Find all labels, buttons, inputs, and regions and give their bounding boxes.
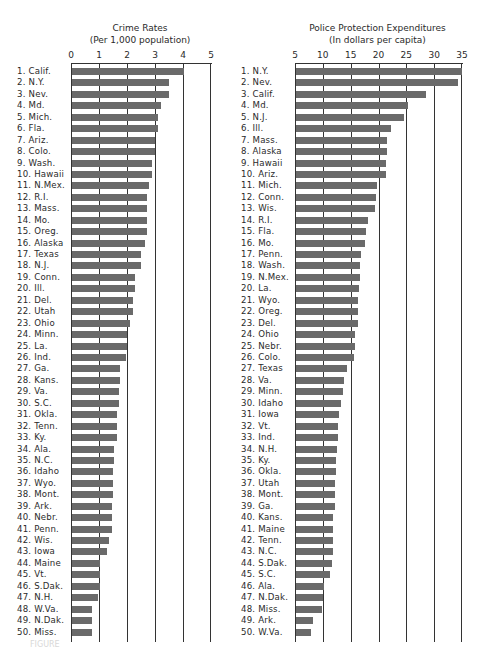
bar bbox=[72, 365, 120, 372]
category-label: 10. Hawaii bbox=[17, 169, 64, 180]
bar bbox=[72, 68, 184, 75]
category-label: 46. S.Dak. bbox=[17, 581, 63, 592]
category-label: 3. Calif. bbox=[241, 89, 275, 100]
figure-caption: FIGURE bbox=[30, 640, 60, 649]
bar bbox=[72, 331, 127, 338]
category-label: 4. Md. bbox=[17, 100, 45, 111]
category-label: 26. Ind. bbox=[17, 352, 51, 363]
category-label: 20. Ill. bbox=[17, 283, 45, 294]
gridline bbox=[210, 64, 211, 642]
bar bbox=[296, 468, 336, 475]
category-label: 24. Ohio bbox=[241, 329, 279, 340]
category-label: 9. Hawaii bbox=[241, 158, 283, 169]
category-label: 21. Wyo. bbox=[241, 295, 280, 306]
category-label: 8. Alaska bbox=[241, 146, 282, 157]
category-label: 12. R.I. bbox=[17, 192, 49, 203]
bar bbox=[72, 354, 126, 361]
bar bbox=[72, 274, 135, 281]
x-tick-label: 35 bbox=[456, 50, 467, 60]
category-label: 38. Mont. bbox=[241, 489, 283, 500]
category-label: 4. Md. bbox=[241, 100, 269, 111]
category-label: 20. La. bbox=[241, 283, 272, 294]
category-label: 15. Fla. bbox=[241, 226, 274, 237]
bar bbox=[296, 297, 358, 304]
bar bbox=[72, 594, 98, 601]
bar bbox=[72, 171, 152, 178]
category-label: 28. Kans. bbox=[17, 375, 59, 386]
bar bbox=[72, 480, 113, 487]
category-label: 11. Mich. bbox=[241, 180, 282, 191]
bar bbox=[72, 503, 112, 510]
bar bbox=[296, 171, 386, 178]
x-tick-label: 20 bbox=[373, 50, 384, 60]
category-label: 23. Ohio bbox=[17, 318, 55, 329]
bar bbox=[72, 571, 100, 578]
bar bbox=[296, 68, 462, 75]
bar bbox=[72, 160, 152, 167]
category-label: 26. Colo. bbox=[241, 352, 281, 363]
bar bbox=[72, 194, 147, 201]
category-label: 30. Idaho bbox=[241, 398, 283, 409]
bar bbox=[72, 262, 141, 269]
bar bbox=[72, 297, 133, 304]
category-label: 39. Ga. bbox=[241, 501, 273, 512]
bar bbox=[296, 285, 359, 292]
bar bbox=[296, 583, 324, 590]
category-label: 47. N.H. bbox=[17, 592, 53, 603]
bar bbox=[296, 148, 387, 155]
category-label: 22. Oreg. bbox=[241, 306, 283, 317]
category-label: 48. W.Va. bbox=[17, 604, 59, 615]
category-label: 38. Mont. bbox=[17, 489, 59, 500]
bar bbox=[72, 91, 169, 98]
category-label: 22. Utah bbox=[17, 306, 55, 317]
chart-title: Police Protection Expenditures (In dolla… bbox=[290, 22, 465, 46]
category-label: 14. R.I. bbox=[241, 215, 273, 226]
gridline bbox=[155, 64, 156, 642]
bar bbox=[296, 240, 365, 247]
category-label: 19. Conn. bbox=[17, 272, 60, 283]
bar bbox=[296, 411, 339, 418]
bar bbox=[296, 91, 426, 98]
category-label: 29. Va. bbox=[17, 386, 48, 397]
bar bbox=[72, 514, 112, 521]
category-label: 24. Minn. bbox=[17, 329, 59, 340]
category-label: 5. N.J. bbox=[241, 112, 268, 123]
bar bbox=[296, 446, 337, 453]
x-tick-label: 10 bbox=[317, 50, 328, 60]
x-tick-label: 25 bbox=[401, 50, 412, 60]
category-label: 47. N.Dak. bbox=[241, 592, 288, 603]
category-label: 13. Wis. bbox=[241, 203, 277, 214]
category-label: 45. Vt. bbox=[17, 569, 47, 580]
bar bbox=[296, 182, 377, 189]
bar bbox=[72, 457, 114, 464]
bar bbox=[72, 629, 92, 636]
category-label: 12. Conn. bbox=[241, 192, 284, 203]
category-label: 32. Tenn. bbox=[17, 421, 58, 432]
category-label: 40. Kans. bbox=[241, 512, 283, 523]
chart-subtitle: (Per 1,000 population) bbox=[65, 34, 215, 46]
bar bbox=[296, 114, 404, 121]
bar bbox=[72, 102, 161, 109]
x-tick-label: 1 bbox=[96, 50, 102, 60]
bar bbox=[72, 114, 158, 121]
bar bbox=[296, 308, 358, 315]
category-label: 29. Minn. bbox=[241, 386, 283, 397]
bar bbox=[72, 388, 119, 395]
gridline bbox=[406, 64, 407, 642]
bar bbox=[296, 343, 355, 350]
bar bbox=[72, 411, 117, 418]
category-label: 16. Alaska bbox=[17, 238, 64, 249]
category-label: 45. S.C. bbox=[241, 569, 276, 580]
category-label: 40. Nebr. bbox=[17, 512, 58, 523]
bar bbox=[296, 491, 335, 498]
bar bbox=[296, 354, 354, 361]
category-label: 35. N.C. bbox=[17, 455, 53, 466]
category-label: 46. Ala. bbox=[241, 581, 275, 592]
gridline bbox=[183, 64, 184, 642]
bar bbox=[72, 182, 149, 189]
category-label: 11. N.Mex. bbox=[17, 180, 65, 191]
bar bbox=[296, 548, 333, 555]
bar bbox=[72, 217, 147, 224]
bar bbox=[72, 228, 147, 235]
bar bbox=[72, 79, 169, 86]
